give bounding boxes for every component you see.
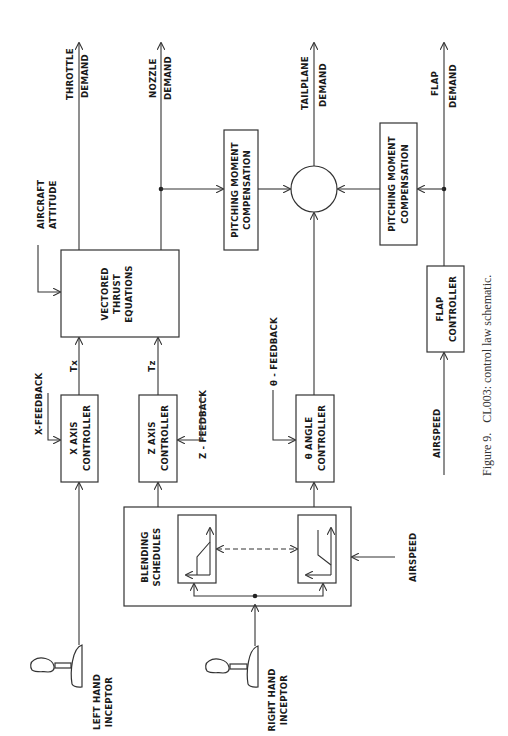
svg-text:EQUATIONS: EQUATIONS [124, 265, 134, 322]
x-axis-controller-block [61, 395, 98, 482]
svg-text:DEMAND: DEMAND [448, 64, 458, 108]
svg-text:COMPENSATION: COMPENSATION [400, 144, 410, 224]
svg-text:INCEPTOR: INCEPTOR [279, 675, 289, 725]
z-axis-controller-block [139, 395, 177, 482]
flap-airspeed-label: AIRSPEED [432, 409, 442, 458]
right-inceptor-junction-dot [253, 594, 258, 599]
svg-text:SCHEDULES: SCHEDULES [152, 527, 162, 586]
x-feedback-label: X-FEEDBACK [34, 372, 44, 435]
theta-angle-controller-block [296, 395, 334, 482]
svg-text:NOZZLE: NOZZLE [148, 58, 158, 98]
svg-text:DEMAND: DEMAND [80, 54, 90, 98]
left-hand-inceptor-icon [31, 645, 82, 687]
svg-text:RIGHT HAND: RIGHT HAND [267, 668, 277, 731]
svg-text:BLENDING: BLENDING [140, 531, 150, 582]
svg-text:THROTTLE: THROTTLE [65, 48, 75, 100]
svg-text:X AXIS: X AXIS [69, 421, 79, 454]
right-hand-inceptor-icon [206, 646, 258, 687]
right-hand-inceptor-label: RIGHT HAND INCEPTOR [267, 668, 289, 731]
svg-text:Figure 9.CL003: control law sc: Figure 9.CL003: control law schematic. [480, 275, 494, 476]
blending-schedule-2 [298, 515, 336, 583]
control-law-schematic: THROTTLE DEMAND NOZZLE DEMAND TAILPLANE … [0, 0, 508, 736]
svg-text:FLAP: FLAP [430, 71, 440, 96]
svg-text:COMPENSATION: COMPENSATION [242, 150, 252, 230]
blending-airspeed-label: AIRSPEED [408, 533, 418, 582]
figure-caption: Figure 9.CL003: control law schematic. [480, 275, 494, 476]
x-feedback-line [48, 393, 60, 440]
svg-text:ATTITUDE: ATTITUDE [48, 180, 58, 229]
theta-feedback-label: θ - FEEDBACK [269, 317, 279, 386]
left-hand-inceptor-label: LEFT HAND INCEPTOR [92, 674, 114, 730]
throttle-demand-label: THROTTLE DEMAND [65, 48, 90, 100]
svg-text:θ ANGLE: θ ANGLE [304, 417, 314, 460]
aircraft-attitude-line [38, 245, 60, 292]
svg-text:TAILPLANE: TAILPLANE [300, 56, 310, 110]
svg-text:PITCHING MOMENT: PITCHING MOMENT [387, 136, 397, 232]
svg-text:DEMAND: DEMAND [318, 63, 328, 107]
flap-controller-block [427, 266, 464, 352]
theta-feedback-line [273, 390, 295, 440]
svg-text:CONTROLLER: CONTROLLER [160, 405, 170, 471]
svg-text:DEMAND: DEMAND [163, 56, 173, 100]
svg-text:INCEPTOR: INCEPTOR [104, 677, 114, 727]
svg-text:CONTROLLER: CONTROLLER [448, 276, 458, 342]
z-feedback-label: Z - FEEDBACK [198, 390, 208, 459]
svg-text:PITCHING MOMENT: PITCHING MOMENT [230, 142, 240, 238]
svg-text:THRUST: THRUST [112, 274, 122, 314]
svg-text:CONTROLLER: CONTROLLER [317, 405, 327, 471]
svg-text:LEFT HAND: LEFT HAND [92, 674, 102, 730]
aircraft-attitude-label: AIRCRAFT ATTITUDE [36, 180, 58, 229]
svg-text:CONTROLLER: CONTROLLER [82, 405, 92, 471]
tz-label: Tz [147, 360, 157, 371]
svg-text:FLAP: FLAP [435, 296, 445, 321]
pitching-moment-compensation-2-block [380, 123, 417, 245]
svg-text:Z AXIS: Z AXIS [147, 421, 157, 454]
tx-label: Tx [69, 360, 79, 372]
svg-text:AIRCRAFT: AIRCRAFT [36, 180, 46, 229]
svg-text:VECTORED: VECTORED [100, 267, 110, 320]
summing-junction [291, 166, 337, 212]
